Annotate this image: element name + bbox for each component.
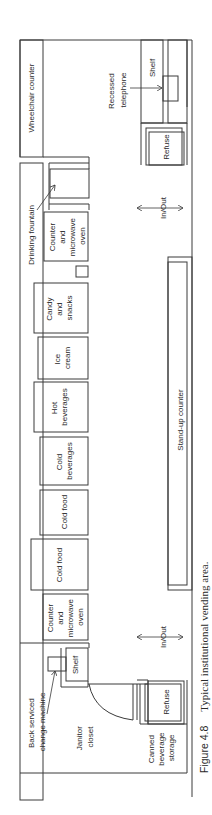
svg-text:Cold food: Cold food <box>60 495 69 529</box>
change-machine-pointer-arrow <box>47 671 55 714</box>
svg-text:Hot beverages: Hot beverages <box>50 388 69 425</box>
figure-number: Figure 4.8 <box>198 726 210 773</box>
in-out-top: In/Out <box>137 196 183 219</box>
svg-text:Figure 4.8 Typical insti: Figure 4.8 Typical institutional vending… <box>194 561 211 773</box>
figure-caption: Figure 4.8 Typical institutional vending… <box>194 561 211 773</box>
svg-text:Candy and snacks: Candy and snacks <box>45 295 74 320</box>
svg-text:Counter and microw: Counter and microwave oven <box>46 597 85 637</box>
svg-text:Cold food: Cold food <box>55 548 64 582</box>
svg-text:Canned beverage st: Canned beverage storage <box>147 730 176 766</box>
svg-text:Janitor closet: Janitor closet <box>75 724 95 750</box>
wheelchair-counter-label: Wheelchair counter <box>27 63 36 132</box>
svg-text:Refuse: Refuse <box>162 689 171 715</box>
stand-up-counter: Stand-up counter <box>168 257 192 590</box>
counter-microwave-top: Counter and microwave oven <box>44 212 88 277</box>
caption-text: Typical institutional vending area. <box>198 561 210 711</box>
counter-microwave-bottom: Counter and microwave oven <box>43 594 88 640</box>
wheelchair-counter: Wheelchair counter <box>20 40 89 163</box>
refuse-top-label: Refuse <box>162 134 171 160</box>
drinking-fountain-label: Drinking fountain <box>27 205 36 265</box>
vending-area-floor-plan: Wheelchair counter Shelf Recessed teleph… <box>0 0 212 815</box>
in-out-top-label: In/Out <box>159 196 168 219</box>
svg-text:Back serviced change mac: Back serviced change machine <box>27 692 47 751</box>
cold-beverages-machine <box>40 437 88 485</box>
svg-text:Stand-up counter: Stand-up counter <box>176 389 185 451</box>
in-out-bottom: In/Out <box>137 625 183 648</box>
svg-text:Ice cream: Ice cream <box>53 347 72 370</box>
svg-text:In/Out: In/Out <box>159 625 168 648</box>
svg-text:Counter and microw: Counter and microwave oven <box>48 216 87 256</box>
recessed-telephone-label-1: Recessed <box>107 73 116 109</box>
vending-machines: Candy and snacks Ice cream Hot beverages… <box>31 283 88 590</box>
recessed-telephone-label-2: telephone <box>119 72 128 108</box>
telephone-alcove: Shelf Recessed telephone Refuse <box>107 40 187 165</box>
janitor-storage-block: Shelf Refuse Back serviced change machin… <box>20 643 187 773</box>
svg-text:Shelf: Shelf <box>71 655 80 674</box>
svg-text:Cold beverages: Cold beverages <box>55 442 74 479</box>
svg-text:Recessed telephone: Recessed telephone <box>107 71 128 109</box>
shelf-top-label: Shelf <box>148 58 157 77</box>
